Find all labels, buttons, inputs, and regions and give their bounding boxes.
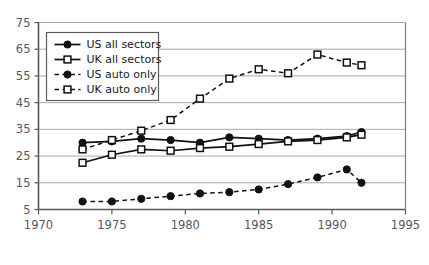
legend-label: US auto only	[87, 68, 158, 81]
x-axis: 197019751980198519901995	[24, 210, 420, 232]
x-tick-label: 1980	[171, 218, 200, 232]
data-point	[226, 75, 233, 82]
data-point	[314, 174, 321, 181]
legend-label: UK all sectors	[87, 53, 162, 66]
data-point	[255, 66, 262, 73]
data-point	[285, 138, 292, 145]
y-axis: 515253545556575	[16, 16, 39, 217]
series-us-auto-only	[79, 166, 365, 205]
data-point	[255, 186, 262, 193]
data-point	[79, 198, 86, 205]
data-point	[343, 166, 350, 173]
data-point	[226, 143, 233, 150]
chart-container: 515253545556575 197019751980198519901995…	[0, 0, 429, 265]
data-point	[167, 147, 174, 154]
data-point	[138, 146, 145, 153]
x-tick-label: 1995	[391, 218, 420, 232]
data-point	[255, 141, 262, 148]
legend-marker	[64, 71, 71, 78]
y-tick-label: 45	[16, 96, 31, 110]
y-tick-label: 15	[16, 176, 31, 190]
data-point	[314, 137, 321, 144]
data-point	[358, 131, 365, 138]
data-point	[285, 70, 292, 77]
y-tick-label: 75	[16, 16, 31, 30]
legend-label: UK auto only	[87, 83, 158, 96]
y-tick-label: 35	[16, 122, 31, 136]
data-point	[196, 190, 203, 197]
data-point	[79, 146, 86, 153]
data-point	[79, 159, 86, 166]
data-point	[138, 127, 145, 134]
data-point	[138, 135, 145, 142]
data-point	[108, 198, 115, 205]
legend-label: US all sectors	[87, 38, 162, 51]
data-point	[197, 145, 204, 152]
legend-marker	[64, 56, 71, 63]
data-point	[167, 117, 174, 124]
data-point	[358, 179, 365, 186]
data-point	[314, 51, 321, 58]
x-tick-label: 1985	[244, 218, 273, 232]
data-point	[109, 137, 116, 144]
data-point	[343, 134, 350, 141]
x-tick-label: 1990	[317, 218, 346, 232]
data-point	[197, 95, 204, 102]
data-point	[358, 62, 365, 69]
data-point	[343, 59, 350, 66]
y-tick-label: 5	[23, 203, 30, 217]
data-point	[109, 151, 116, 158]
legend-marker	[64, 41, 71, 48]
legend-marker	[64, 86, 71, 93]
x-tick-label: 1970	[24, 218, 53, 232]
data-point	[167, 136, 174, 143]
data-point	[284, 181, 291, 188]
data-point	[226, 189, 233, 196]
line-chart: 515253545556575 197019751980198519901995…	[0, 0, 429, 265]
data-point	[138, 195, 145, 202]
data-point	[79, 139, 86, 146]
data-point	[167, 193, 174, 200]
x-tick-label: 1975	[97, 218, 126, 232]
y-tick-label: 55	[16, 69, 31, 83]
y-tick-label: 25	[16, 149, 31, 163]
data-point	[226, 134, 233, 141]
chart-legend: US all sectorsUK all sectorsUS auto only…	[47, 33, 162, 101]
y-tick-label: 65	[16, 42, 31, 56]
